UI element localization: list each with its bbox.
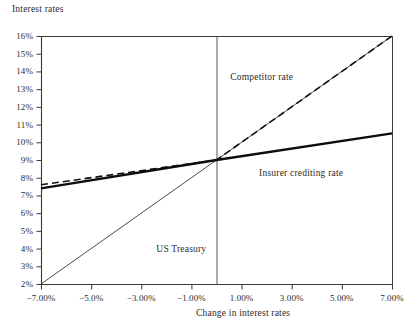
- plot-canvas: [0, 0, 420, 330]
- interest-rates-chart: Interest rates Change in interest rates …: [0, 0, 420, 330]
